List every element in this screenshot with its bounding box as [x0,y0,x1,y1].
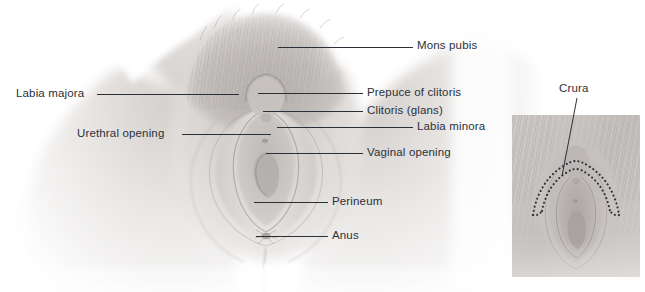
label-perineum: Perineum [332,195,382,208]
labia-majora-region [191,100,341,262]
anatomy-figure: Mons pubis Labia majora Prepuce of clito… [0,0,645,292]
mons-pubis-region [186,4,346,140]
leader-anus [256,236,328,237]
label-labia-majora: Labia majora [16,87,84,100]
leader-labia-majora [97,94,239,95]
perineum-anus-region [248,230,284,292]
label-anus: Anus [332,229,359,242]
vestibule-region [233,74,298,232]
label-clitoris-glans: Clitoris (glans) [367,104,443,117]
label-labia-minora: Labia minora [417,120,485,133]
anus-detail [255,230,277,244]
leader-mons-pubis [278,47,413,48]
leader-labia-minora [277,127,413,128]
leader-perineum [254,202,328,203]
leader-clitoris-glans [263,111,363,112]
label-prepuce-of-clitoris: Prepuce of clitoris [367,86,461,99]
crura-inset-panel [512,115,640,277]
label-mons-pubis: Mons pubis [417,39,477,52]
leader-prepuce-of-clitoris [258,93,363,94]
label-urethral-opening: Urethral opening [77,127,164,140]
leader-vaginal-opening [266,153,363,154]
label-crura: Crura [559,82,589,95]
leader-urethral-opening [182,134,271,135]
label-vaginal-opening: Vaginal opening [367,146,451,159]
